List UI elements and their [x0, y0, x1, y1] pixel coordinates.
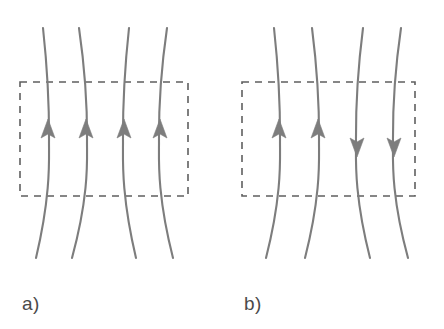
figure-root: a)b): [0, 0, 444, 329]
panel-label: a): [22, 293, 40, 314]
panel-a: [20, 28, 188, 258]
labels-layer: a)b): [22, 293, 262, 314]
field-line: [266, 28, 280, 258]
panels-layer: [20, 28, 415, 258]
field-line: [305, 28, 319, 258]
dashed-surface-boundary: [20, 82, 188, 196]
field-line: [123, 28, 136, 258]
panel-b: [242, 28, 415, 258]
field-line: [72, 28, 87, 258]
field-line: [36, 28, 49, 258]
field-line: [159, 28, 173, 258]
figure-canvas: a)b): [0, 0, 444, 329]
panel-label: b): [244, 293, 262, 314]
